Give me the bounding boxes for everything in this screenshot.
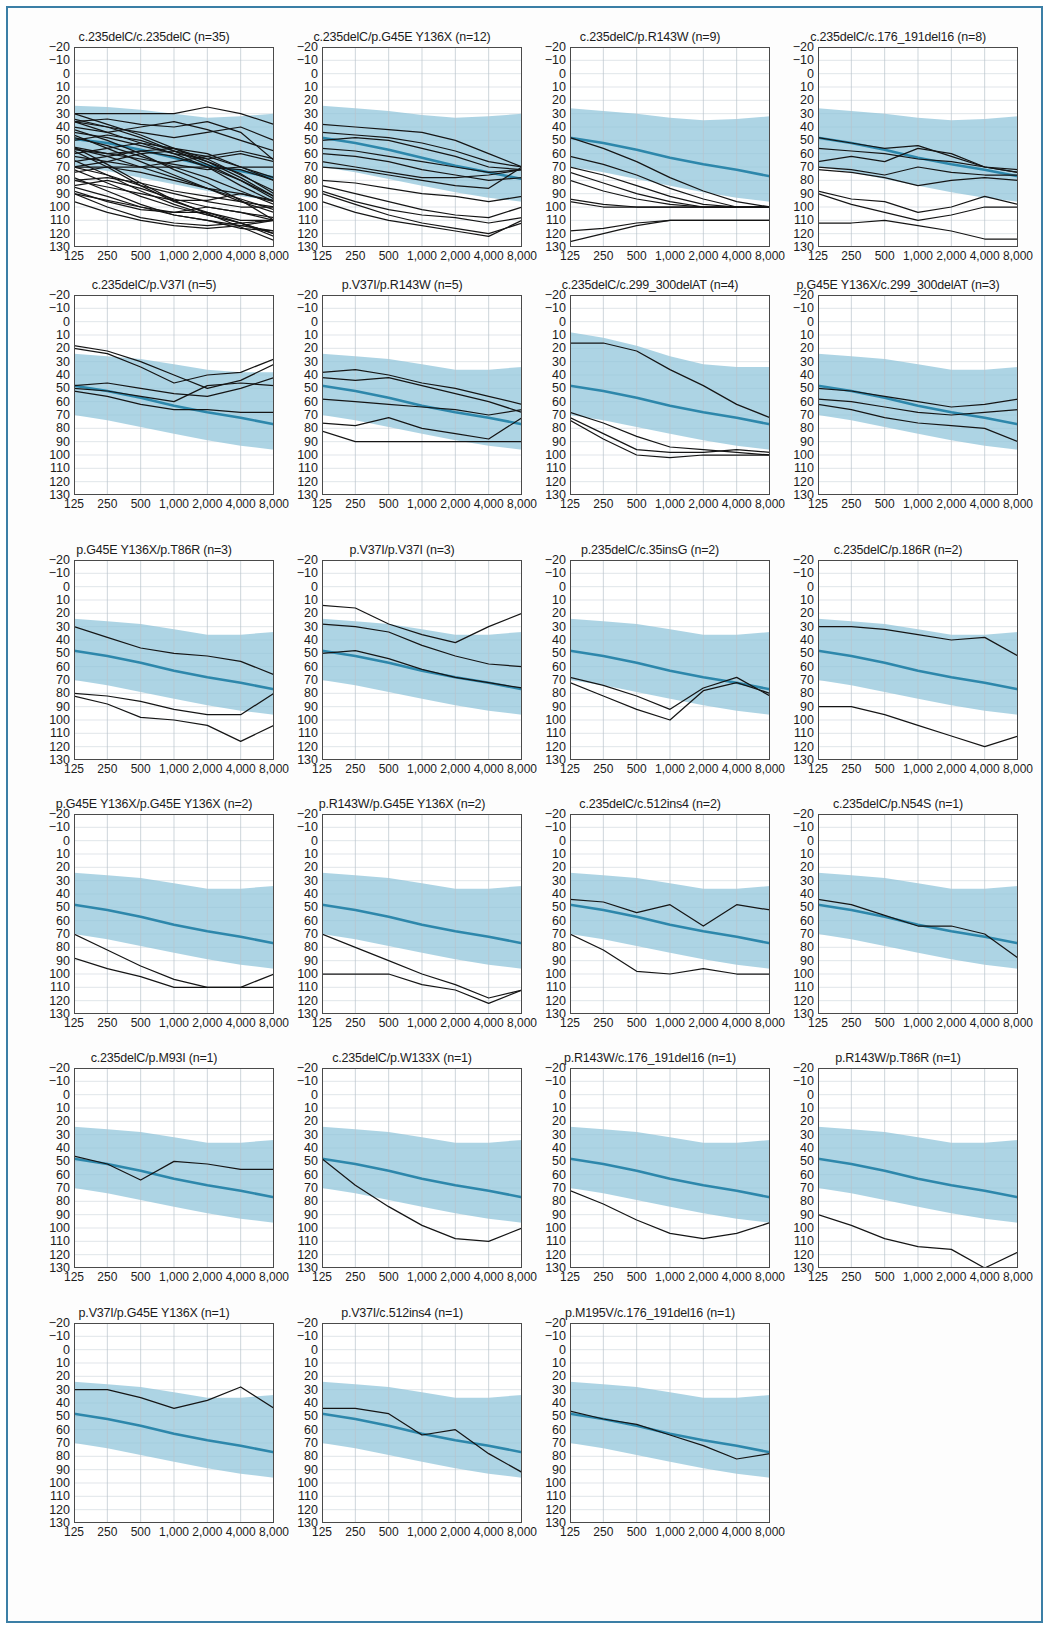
y-axis-labels: −20−100102030405060708090100110120130 [526,47,568,247]
y-axis-tick: −20 [545,41,566,53]
y-axis-tick: 120 [545,1504,566,1516]
x-axis-tick: 1,000 [407,497,437,511]
x-axis-labels: 1252505001,0002,0004,0008,000 [66,1525,278,1543]
y-axis-tick: 120 [793,1249,814,1261]
y-axis-tick: −20 [793,289,814,301]
y-axis-tick: 0 [807,835,814,847]
plot-svg [74,47,274,247]
x-axis-labels: 1252505001,0002,0004,0008,000 [562,249,774,267]
plot-svg [818,1068,1018,1268]
x-axis-labels: 1252505001,0002,0004,0008,000 [562,1270,774,1288]
y-axis-tick: 10 [304,848,318,860]
x-axis-tick: 1,000 [407,762,437,776]
x-axis-tick: 500 [131,249,151,263]
y-axis-tick: −20 [545,1317,566,1329]
y-axis-tick: 10 [56,848,70,860]
y-axis-tick: 50 [552,901,566,913]
y-axis-tick: 80 [552,174,566,186]
y-axis-tick: −10 [545,567,566,579]
x-axis-tick: 8,000 [1003,1016,1033,1030]
plot-area: −20−100102030405060708090100110120130125… [774,1068,1022,1294]
y-axis-tick: 10 [304,1357,318,1369]
y-axis-tick: 10 [800,81,814,93]
y-axis-tick: −10 [49,567,70,579]
y-axis-tick: 70 [800,409,814,421]
y-axis-tick: 80 [800,422,814,434]
y-axis-tick: −10 [49,1075,70,1087]
x-axis-labels: 1252505001,0002,0004,0008,000 [810,762,1022,780]
y-axis-tick: −10 [49,54,70,66]
y-axis-tick: 100 [545,449,566,461]
y-axis-tick: 100 [49,968,70,980]
x-axis-tick: 125 [560,762,580,776]
audiogram-panel: p.V37I/p.G45E Y136X (n=1)−20−10010203040… [30,1306,278,1549]
y-axis-tick: 20 [304,1115,318,1127]
y-axis-tick: 20 [304,342,318,354]
x-axis-tick: 1,000 [655,1016,685,1030]
x-axis-tick: 250 [345,497,365,511]
x-axis-tick: 500 [379,1016,399,1030]
x-axis-tick: 4,000 [970,762,1000,776]
x-axis-tick: 500 [627,762,647,776]
y-axis-tick: −10 [793,1075,814,1087]
y-axis-tick: 10 [552,329,566,341]
y-axis-tick: 40 [800,634,814,646]
y-axis-tick: 30 [56,875,70,887]
y-axis-tick: 20 [56,1370,70,1382]
y-axis-tick: −20 [297,1062,318,1074]
y-axis-tick: 90 [304,1464,318,1476]
x-axis-labels: 1252505001,0002,0004,0008,000 [314,762,526,780]
y-axis-tick: 20 [56,342,70,354]
plot-area: −20−100102030405060708090100110120130125… [278,1068,526,1294]
y-axis-tick: 40 [56,121,70,133]
x-axis-tick: 500 [627,249,647,263]
x-axis-tick: 250 [841,1270,861,1284]
y-axis-tick: 10 [56,594,70,606]
y-axis-tick: 60 [800,396,814,408]
x-axis-labels: 1252505001,0002,0004,0008,000 [314,497,526,515]
y-axis-tick: 90 [56,188,70,200]
x-axis-tick: 125 [808,249,828,263]
y-axis-tick: 30 [304,875,318,887]
y-axis-tick: 80 [304,174,318,186]
plot-svg [818,295,1018,495]
y-axis-tick: 20 [800,94,814,106]
x-axis-labels: 1252505001,0002,0004,0008,000 [66,1270,278,1288]
y-axis-tick: 50 [304,382,318,394]
y-axis-tick: 80 [304,687,318,699]
y-axis-tick: 0 [63,68,70,80]
x-axis-tick: 4,000 [970,497,1000,511]
x-axis-tick: 250 [593,249,613,263]
plot-svg [818,560,1018,760]
y-axis-tick: 60 [56,915,70,927]
y-axis-tick: 60 [56,661,70,673]
plot-area: −20−100102030405060708090100110120130125… [278,47,526,273]
y-axis-tick: 70 [552,409,566,421]
y-axis-tick: 50 [56,901,70,913]
x-axis-tick: 2,000 [192,1525,222,1539]
x-axis-tick: 1,000 [159,762,189,776]
y-axis-tick: 100 [49,1222,70,1234]
y-axis-tick: −20 [49,41,70,53]
y-axis-tick: 60 [552,1169,566,1181]
x-axis-labels: 1252505001,0002,0004,0008,000 [562,497,774,515]
x-axis-tick: 250 [593,1525,613,1539]
y-axis-tick: 20 [56,861,70,873]
y-axis-labels: −20−100102030405060708090100110120130 [278,295,320,495]
y-axis-tick: 40 [800,888,814,900]
audiogram-panel: c.235delC/c.299_300delAT (n=4)−20−100102… [526,278,774,521]
y-axis-tick: −20 [49,554,70,566]
plot-area: −20−100102030405060708090100110120130125… [526,1068,774,1294]
y-axis-tick: 110 [50,462,70,474]
y-axis-tick: 60 [552,1424,566,1436]
x-axis-tick: 125 [312,249,332,263]
x-axis-tick: 1,000 [159,1270,189,1284]
y-axis-tick: 30 [552,108,566,120]
y-axis-tick: 40 [552,888,566,900]
plot-svg [74,1068,274,1268]
y-axis-tick: 110 [50,214,70,226]
y-axis-tick: 80 [56,1450,70,1462]
x-axis-tick: 1,000 [903,762,933,776]
x-axis-tick: 1,000 [159,1525,189,1539]
y-axis-tick: 90 [552,188,566,200]
